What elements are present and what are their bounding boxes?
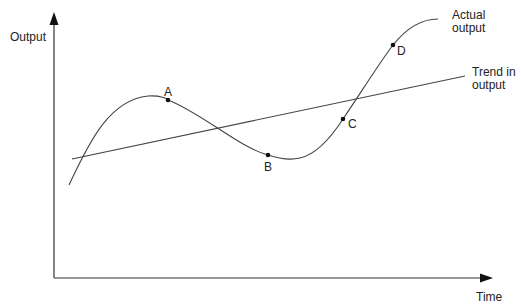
business-cycle-diagram: A B C D Output Time Actual output Trend … bbox=[0, 0, 521, 308]
x-axis-label: Time bbox=[476, 290, 503, 304]
point-b-label: B bbox=[264, 160, 272, 174]
point-b-marker bbox=[266, 153, 271, 158]
x-axis-arrow-icon bbox=[480, 274, 493, 283]
actual-output-label-line2: output bbox=[452, 21, 486, 35]
y-axis-label: Output bbox=[10, 30, 47, 44]
point-a-label: A bbox=[164, 85, 172, 99]
point-d-label: D bbox=[397, 44, 406, 58]
trend-label-line2: output bbox=[472, 78, 506, 92]
actual-output-label-line1: Actual bbox=[452, 8, 485, 22]
point-c-label: C bbox=[348, 117, 357, 131]
y-axis-arrow-icon bbox=[50, 12, 59, 25]
point-c-marker bbox=[341, 117, 346, 122]
trend-line bbox=[72, 76, 465, 159]
actual-output-curve bbox=[69, 19, 438, 185]
trend-label-line1: Trend in bbox=[472, 65, 516, 79]
point-d-marker bbox=[391, 43, 396, 48]
